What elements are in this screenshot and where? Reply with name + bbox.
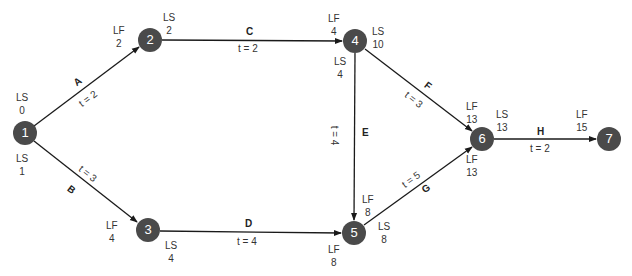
label-key: LS xyxy=(165,239,177,252)
duration-h: t = 2 xyxy=(530,143,550,154)
label-value: 10 xyxy=(372,38,384,51)
arrow-f xyxy=(365,49,472,131)
activity-label-e: E xyxy=(362,127,369,138)
arrow-e xyxy=(354,53,355,220)
arrows-layer xyxy=(0,0,632,276)
node3-lf: LF4 xyxy=(106,219,118,245)
node-5: 5 xyxy=(342,221,366,245)
arrow-b xyxy=(34,141,137,222)
arrow-g xyxy=(364,147,472,225)
network-diagram: 1 2 3 4 5 6 7 A B C D E F G H t = 2 t = … xyxy=(0,0,632,276)
node5-ls: LS8 xyxy=(378,220,390,246)
arrow-a xyxy=(34,47,139,126)
node4-ls-right: LS10 xyxy=(372,25,384,51)
node4-ls-below: LS4 xyxy=(334,55,346,81)
label-key: LS xyxy=(334,55,346,68)
label-value: 4 xyxy=(328,25,340,38)
arrow-c xyxy=(162,40,342,41)
label-value: 1 xyxy=(16,165,28,178)
node-1: 1 xyxy=(13,121,37,145)
node3-ls: LS4 xyxy=(165,239,177,265)
node-7: 7 xyxy=(597,127,621,151)
label-key: LS xyxy=(378,220,390,233)
duration-e: t = 4 xyxy=(329,126,340,146)
node6-ls: LS13 xyxy=(496,108,508,134)
label-value: 2 xyxy=(113,37,125,50)
label-value: 4 xyxy=(334,68,346,81)
label-value: 13 xyxy=(496,121,508,134)
label-key: LF xyxy=(576,108,588,121)
arrow-d xyxy=(160,231,341,233)
label-value: 4 xyxy=(165,252,177,265)
node1-ls-top: LS0 xyxy=(16,91,28,117)
label-value: 0 xyxy=(16,104,28,117)
activity-label-d: D xyxy=(245,218,252,229)
label-value: 8 xyxy=(328,256,340,269)
label-value: 15 xyxy=(576,121,588,134)
node2-ls: LS2 xyxy=(163,11,175,37)
node-4: 4 xyxy=(343,29,367,53)
node-3: 3 xyxy=(136,218,160,242)
label-key: LF xyxy=(328,243,340,256)
duration-d: t = 4 xyxy=(237,236,257,247)
label-value: 4 xyxy=(106,232,118,245)
label-value: 8 xyxy=(362,206,374,219)
label-key: LS xyxy=(372,25,384,38)
label-key: LF xyxy=(362,193,374,206)
node2-lf: LF2 xyxy=(113,24,125,50)
node-6: 6 xyxy=(470,127,494,151)
node4-lf: LF4 xyxy=(328,12,340,38)
label-value: 13 xyxy=(466,166,478,179)
label-key: LF xyxy=(466,153,478,166)
node6-lf-bottom: LF13 xyxy=(466,153,478,179)
label-key: LS xyxy=(496,108,508,121)
label-key: LF xyxy=(113,24,125,37)
duration-c: t = 2 xyxy=(238,43,258,54)
node5-lf-top: LF8 xyxy=(362,193,374,219)
label-value: 2 xyxy=(163,24,175,37)
node1-ls-bottom: LS1 xyxy=(16,152,28,178)
label-key: LS xyxy=(16,152,28,165)
label-key: LF xyxy=(106,219,118,232)
label-value: 13 xyxy=(466,113,478,126)
label-key: LS xyxy=(16,91,28,104)
label-key: LF xyxy=(466,100,478,113)
activity-label-c: C xyxy=(246,26,253,37)
label-key: LF xyxy=(328,12,340,25)
node-2: 2 xyxy=(138,28,162,52)
node7-lf: LF15 xyxy=(576,108,588,134)
label-value: 8 xyxy=(378,233,390,246)
node6-lf-top: LF13 xyxy=(466,100,478,126)
activity-label-h: H xyxy=(537,126,544,137)
label-key: LS xyxy=(163,11,175,24)
node5-lf-bottom: LF8 xyxy=(328,243,340,269)
